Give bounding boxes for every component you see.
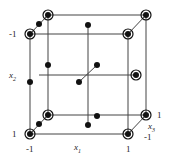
x3-near-label: -1 bbox=[144, 133, 152, 142]
x2-bottom-label: 1 bbox=[12, 130, 17, 139]
x2-top-label: -1 bbox=[9, 30, 17, 39]
x3-far-label: 1 bbox=[157, 111, 162, 120]
x1-axis-label: x1 bbox=[74, 143, 81, 154]
x1-min-label: -1 bbox=[26, 145, 34, 154]
x2-axis-label: x2 bbox=[9, 71, 16, 82]
cube-diagram: -1 x2 1 -1 x1 1 1 x3 -1 bbox=[0, 0, 173, 158]
x1-max-label: 1 bbox=[126, 145, 131, 154]
